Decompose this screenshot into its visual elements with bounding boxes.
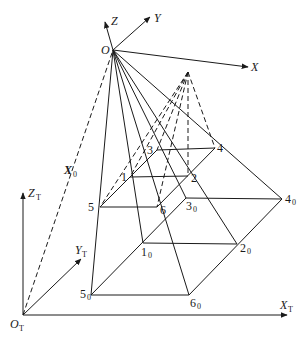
point-2-0-sub: 0	[247, 247, 251, 256]
point-3-0-sub: 0	[193, 205, 197, 214]
point-2-label: 2	[191, 171, 197, 185]
point-5-0-label: 5	[80, 287, 86, 301]
point-6-label: 6	[160, 203, 166, 217]
world-origin-sub: T	[19, 324, 24, 333]
world-x-sub: T	[288, 305, 293, 314]
point-5-label: 5	[88, 200, 94, 214]
point-4-0-sub: 0	[292, 198, 296, 207]
camera-y-label: Y	[154, 11, 162, 25]
point-4-label: 4	[217, 141, 223, 155]
point-2-0-label: 2	[240, 241, 246, 255]
camera-y-axis	[113, 17, 150, 50]
camera-x-label: X	[250, 60, 259, 74]
x0-label: X	[63, 163, 73, 177]
point-1-0-sub: 0	[148, 251, 152, 260]
camera-origin-label: O	[101, 43, 110, 57]
point-4-0-label: 4	[285, 192, 291, 206]
point-6-0-sub: 0	[197, 302, 201, 311]
projection-diagram: O Z Y X X 0 O T Z T Y T X T 1 2 3 4 5 6 …	[0, 0, 305, 341]
point-1-label: 1	[121, 170, 127, 184]
point-6-0-label: 6	[190, 296, 196, 310]
camera-x-axis	[113, 50, 248, 67]
world-x-label: X	[279, 298, 288, 312]
world-origin-label: O	[10, 317, 19, 331]
world-y-axis	[23, 259, 81, 315]
world-y-sub: T	[82, 250, 87, 259]
camera-frame	[105, 17, 248, 67]
projection-rays	[91, 50, 282, 295]
world-z-label: Z	[28, 186, 35, 200]
x0-sub: 0	[73, 170, 77, 179]
world-z-sub: T	[36, 193, 41, 202]
point-3-0-label: 3	[186, 199, 192, 213]
point-1-0-label: 1	[141, 245, 147, 259]
x0-vector	[23, 50, 113, 315]
camera-z-label: Z	[111, 14, 118, 28]
point-3-label: 3	[147, 143, 153, 157]
point-5-0-sub: 0	[87, 293, 91, 302]
